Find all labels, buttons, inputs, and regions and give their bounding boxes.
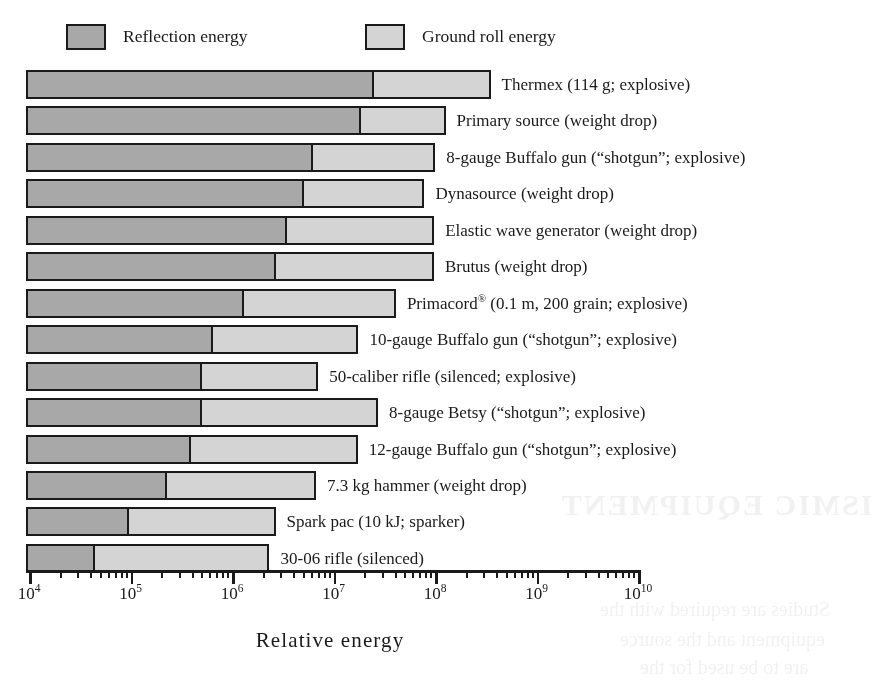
bar-row-label: Thermex (114 g; explosive)	[502, 76, 691, 93]
bar-segment-ground-roll-energy	[165, 473, 314, 498]
axis-tick-minor	[404, 570, 406, 578]
bar-segment-ground-roll-energy	[200, 364, 316, 389]
bar-segment-ground-roll-energy	[242, 291, 394, 316]
bar-segment-reflection-energy	[28, 108, 359, 133]
bar-segment-reflection-energy	[28, 473, 165, 498]
axis-tick-minor	[293, 570, 295, 578]
legend-swatch-reflection-energy	[66, 24, 106, 50]
axis-tick-minor	[329, 570, 331, 578]
bar-row-label: 30-06 rifle (silenced)	[280, 550, 424, 567]
axis-tick-minor	[527, 570, 529, 578]
stacked-bar	[26, 325, 358, 354]
stacked-bar	[26, 362, 318, 391]
bar-segment-reflection-energy	[28, 437, 189, 462]
axis-tick-label: 104	[18, 585, 41, 602]
bar-segment-reflection-energy	[28, 400, 200, 425]
bar-row: 50-caliber rifle (silenced; explosive)	[26, 362, 576, 391]
bar-segment-reflection-energy	[28, 291, 242, 316]
bar-plot-area: Thermex (114 g; explosive)Primary source…	[26, 70, 846, 570]
axis-tick-minor	[506, 570, 508, 578]
relative-energy-chart: Reflection energy Ground roll energy The…	[0, 0, 873, 680]
bar-row: Thermex (114 g; explosive)	[26, 70, 690, 99]
axis-tick-major	[131, 570, 134, 584]
stacked-bar	[26, 179, 424, 208]
axis-tick-minor	[483, 570, 485, 578]
bar-segment-reflection-energy	[28, 546, 93, 571]
stacked-bar	[26, 106, 446, 135]
bar-segment-reflection-energy	[28, 254, 274, 279]
bar-row-label: Elastic wave generator (weight drop)	[445, 222, 697, 239]
axis-tick-label: 106	[221, 585, 244, 602]
bar-row: 10-gauge Buffalo gun (“shotgun”; explosi…	[26, 325, 677, 354]
bar-segment-ground-roll-energy	[311, 145, 433, 170]
bar-row: 12-gauge Buffalo gun (“shotgun”; explosi…	[26, 435, 676, 464]
bar-row: Primary source (weight drop)	[26, 106, 657, 135]
axis-tick-minor	[395, 570, 397, 578]
bar-segment-ground-roll-energy	[285, 218, 432, 243]
axis-tick-minor	[201, 570, 203, 578]
axis-tick-minor	[419, 570, 421, 578]
bar-segment-ground-roll-energy	[359, 108, 444, 133]
bar-row: Spark pac (10 kJ; sparker)	[26, 507, 465, 536]
stacked-bar	[26, 544, 269, 573]
axis-tick-minor	[263, 570, 265, 578]
bar-segment-ground-roll-energy	[93, 546, 267, 571]
axis-tick-minor	[90, 570, 92, 578]
axis-tick-minor	[514, 570, 516, 578]
axis-tick-minor	[585, 570, 587, 578]
axis-tick-label: 108	[424, 585, 447, 602]
stacked-bar	[26, 507, 276, 536]
bar-row-label: 10-gauge Buffalo gun (“shotgun”; explosi…	[369, 331, 677, 348]
axis-tick-minor	[521, 570, 523, 578]
axis-tick-minor	[430, 570, 432, 578]
axis-tick-minor	[192, 570, 194, 578]
legend-label-reflection-energy: Reflection energy	[123, 28, 248, 46]
bar-row-label: 12-gauge Buffalo gun (“shotgun”; explosi…	[369, 441, 677, 458]
axis-tick-minor	[126, 570, 128, 578]
axis-tick-minor	[466, 570, 468, 578]
bar-row-label: Brutus (weight drop)	[445, 258, 588, 275]
axis-tick-major	[334, 570, 337, 584]
axis-tick-minor	[628, 570, 630, 578]
bar-row-label: Dynasource (weight drop)	[435, 185, 613, 202]
bar-row: Elastic wave generator (weight drop)	[26, 216, 697, 245]
axis-tick-minor	[179, 570, 181, 578]
bar-row: 7.3 kg hammer (weight drop)	[26, 471, 527, 500]
axis-tick-minor	[615, 570, 617, 578]
axis-tick-minor	[496, 570, 498, 578]
bar-segment-reflection-energy	[28, 72, 372, 97]
bar-row-label: 8-gauge Buffalo gun (“shotgun”; explosiv…	[446, 149, 745, 166]
x-axis-title: Relative energy	[0, 630, 660, 651]
bar-segment-ground-roll-energy	[211, 327, 356, 352]
axis-tick-minor	[567, 570, 569, 578]
bar-row-label: Spark pac (10 kJ; sparker)	[287, 513, 465, 530]
bar-segment-ground-roll-energy	[372, 72, 488, 97]
bar-row-label: 8-gauge Betsy (“shotgun”; explosive)	[389, 404, 645, 421]
legend-label-ground-roll-energy: Ground roll energy	[422, 28, 556, 46]
axis-tick-minor	[216, 570, 218, 578]
bar-row-label: Primacord® (0.1 m, 200 grain; explosive)	[407, 295, 688, 312]
legend-swatch-ground-roll-energy	[365, 24, 405, 50]
axis-tick-minor	[77, 570, 79, 578]
axis-tick-minor	[532, 570, 534, 578]
axis-tick-label: 109	[525, 585, 548, 602]
bar-segment-ground-roll-energy	[127, 509, 273, 534]
axis-tick-minor	[100, 570, 102, 578]
axis-tick-major	[29, 570, 32, 584]
axis-tick-minor	[598, 570, 600, 578]
axis-tick-minor	[318, 570, 320, 578]
axis-tick-minor	[364, 570, 366, 578]
bar-row: Primacord® (0.1 m, 200 grain; explosive)	[26, 289, 688, 318]
bar-segment-ground-roll-energy	[302, 181, 422, 206]
stacked-bar	[26, 143, 435, 172]
bar-segment-reflection-energy	[28, 327, 211, 352]
stacked-bar	[26, 216, 434, 245]
stacked-bar	[26, 289, 396, 318]
axis-tick-minor	[311, 570, 313, 578]
chart-legend: Reflection energy Ground roll energy	[0, 0, 873, 62]
bar-row-label: 50-caliber rifle (silenced; explosive)	[329, 368, 576, 385]
stacked-bar	[26, 398, 378, 427]
axis-tick-minor	[425, 570, 427, 578]
bar-segment-ground-roll-energy	[274, 254, 431, 279]
bar-row: Dynasource (weight drop)	[26, 179, 614, 208]
